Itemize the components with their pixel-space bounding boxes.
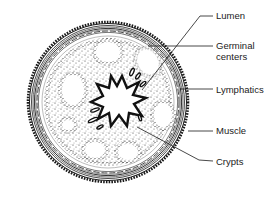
appendix-cross-section-diagram (0, 0, 280, 200)
germinal-center (94, 40, 122, 64)
label-muscle: Muscle (216, 125, 246, 136)
germinal-center (60, 118, 76, 132)
label-lumen: Lumen (216, 10, 245, 21)
germinal-center (60, 73, 86, 107)
germinal-center (83, 140, 107, 160)
label-crypts: Crypts (216, 156, 243, 167)
label-lymphatics: Lymphatics (216, 84, 264, 95)
germinal-center (152, 101, 174, 129)
label-germinal-centers: Germinal centers (216, 40, 255, 62)
germinal-center (116, 142, 140, 162)
